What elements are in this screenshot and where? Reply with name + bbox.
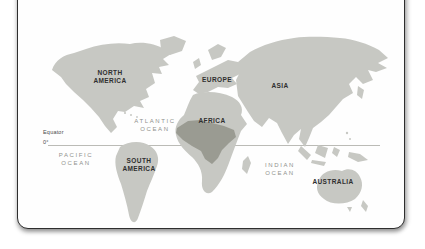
label-equator-degree: 0° bbox=[43, 140, 49, 146]
label-north-america: NORTH AMERICA bbox=[93, 69, 126, 85]
philippines-island bbox=[349, 138, 351, 140]
new-guinea-shape bbox=[348, 152, 368, 162]
label-australia: AUSTRALIA bbox=[312, 178, 353, 186]
label-africa: AFRICA bbox=[199, 117, 226, 125]
madagascar-shape bbox=[242, 156, 251, 174]
caribbean-island bbox=[124, 112, 126, 114]
sumatra-shape bbox=[298, 146, 311, 160]
borneo-shape bbox=[315, 145, 328, 158]
south-america-shape bbox=[115, 142, 158, 222]
caribbean-island bbox=[130, 114, 132, 116]
philippines-island bbox=[346, 132, 348, 134]
label-pacific-ocean: PACIFIC OCEAN bbox=[59, 151, 93, 167]
new-zealand-shape bbox=[361, 200, 368, 212]
java-shape bbox=[311, 160, 326, 166]
australia-shape bbox=[317, 169, 362, 203]
asia-shape bbox=[236, 37, 388, 147]
label-south-america: SOUTH AMERICA bbox=[122, 157, 155, 173]
british-isles-shape bbox=[193, 58, 201, 69]
scandinavia-shape bbox=[208, 44, 226, 60]
label-indian-ocean: INDIAN OCEAN bbox=[265, 161, 295, 177]
label-atlantic-ocean: ATLANTIC OCEAN bbox=[134, 117, 175, 133]
sulawesi-shape bbox=[332, 147, 340, 157]
label-equator: Equator bbox=[43, 130, 64, 136]
label-europe: EUROPE bbox=[202, 76, 232, 84]
japan-shape bbox=[357, 86, 364, 99]
label-asia: ASIA bbox=[271, 82, 288, 90]
worksheet-page: NORTH AMERICA EUROPE ASIA AFRICA SOUTH A… bbox=[0, 0, 425, 249]
tasmania-shape bbox=[347, 207, 352, 212]
